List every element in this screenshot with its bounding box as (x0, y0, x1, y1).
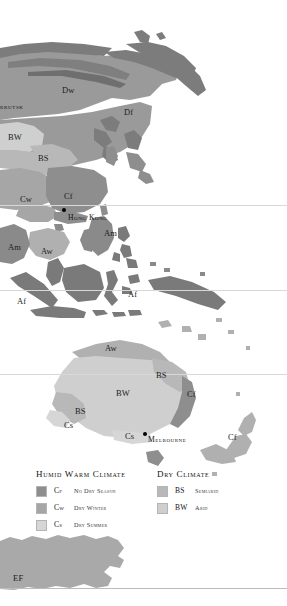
city-label-irkutsk: Irkutsk (0, 103, 23, 111)
climate-map-page: Dw Df BW BS Cw Cf Am Am Aw Af Af Aw BS B… (0, 0, 287, 606)
climate-label-cf-new-zealand: Cf (228, 433, 237, 442)
climate-label-bw-asia: BW (8, 133, 22, 142)
city-marker-melbourne (143, 432, 147, 436)
bottom-rule (0, 588, 287, 589)
legend-item-cw: Cw Dry Winter (36, 501, 126, 515)
legend-group-dry-climate: Dry Climate BS Semiarid BW Arid (157, 470, 218, 518)
legend-item-bw: BW Arid (157, 501, 218, 515)
legend-item-cs: Cs Dry Summer (36, 518, 126, 532)
legend-swatch-cw (36, 503, 47, 514)
legend-swatch-cf (36, 486, 47, 497)
climate-label-af-newguinea: Af (128, 290, 137, 299)
climate-label-cs-australia-south: Cs (125, 432, 134, 441)
city-label-hong-kong: Hong Kong (68, 214, 107, 222)
climate-label-am-indochina: Am (104, 229, 117, 238)
legend-description-bw: Arid (195, 505, 208, 511)
legend-code-cw: Cw (54, 504, 74, 512)
city-label-melbourne: Melbourne (148, 436, 186, 444)
climate-label-am-burma: Am (8, 243, 21, 252)
climate-label-bs-australia-sw: BS (75, 407, 86, 416)
legend-title-dry-climate: Dry Climate (157, 470, 218, 479)
legend-title-humid-warm-climate: Humid Warm Climate (36, 470, 126, 479)
legend-description-bs: Semiarid (195, 488, 218, 494)
legend-description-cs: Dry Summer (74, 522, 108, 528)
city-marker-hong-kong (62, 208, 66, 212)
legend-code-cs: Cs (54, 521, 74, 529)
climate-label-aw-australia: Aw (105, 344, 117, 353)
legend-item-cf: Cf No Dry Season (36, 484, 126, 498)
legend-description-cw: Dry Winter (74, 505, 107, 511)
legend-item-bs: BS Semiarid (157, 484, 218, 498)
climate-label-bw-australia: BW (116, 389, 130, 398)
legend-swatch-bs (157, 486, 168, 497)
legend-group-humid-warm-climate: Humid Warm Climate Cf No Dry Season Cw D… (36, 470, 126, 535)
legend-code-bw: BW (175, 504, 195, 512)
climate-label-af-sumatra: Af (17, 297, 26, 306)
map-legend: Humid Warm Climate Cf No Dry Season Cw D… (0, 470, 287, 532)
climate-label-dw: Dw (62, 86, 75, 95)
legend-description-cf: No Dry Season (74, 488, 116, 494)
region-australia (46, 340, 196, 466)
climate-label-df: Df (124, 108, 133, 117)
legend-code-cf: Cf (54, 487, 74, 495)
climate-label-cf-australia-east: Cf (187, 390, 196, 399)
legend-swatch-cs (36, 520, 47, 531)
legend-swatch-bw (157, 503, 168, 514)
climate-label-bs-australia-ne: BS (156, 371, 167, 380)
legend-code-bs: BS (175, 487, 195, 495)
climate-label-aw-indochina: Aw (41, 247, 53, 256)
climate-label-bs-asia: BS (38, 154, 49, 163)
climate-label-cw-china: Cw (20, 195, 32, 204)
climate-label-cf-china: Cf (64, 192, 73, 201)
climate-label-cs-australia-sw: Cs (64, 421, 73, 430)
climate-label-ef-antarctica: EF (13, 574, 23, 583)
